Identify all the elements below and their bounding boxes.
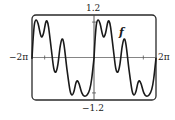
y-axis-max-label: 1.2 xyxy=(86,4,100,13)
x-axis-max-label: 2π xyxy=(158,53,170,62)
x-axis-min-label: −2π xyxy=(9,53,28,62)
y-axis-min-label: −1.2 xyxy=(82,104,104,113)
curve-label-f: f xyxy=(119,27,124,38)
